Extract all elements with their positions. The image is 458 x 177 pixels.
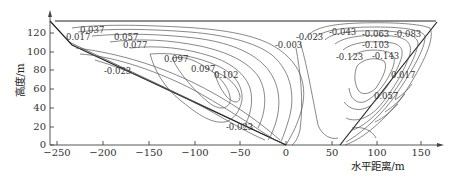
contour-label: 0.102 xyxy=(214,70,238,80)
contour-label: 0.097 xyxy=(191,64,215,74)
contour-label: -0.023 xyxy=(226,122,253,132)
contour-label: -0.143 xyxy=(372,51,399,61)
contour-label: 0.057 xyxy=(374,91,398,101)
x-axis-arrow-icon xyxy=(437,143,444,147)
x-tick-label: −50 xyxy=(229,147,250,158)
contour-label: -0.023 xyxy=(296,32,323,42)
x-tick-label: 0 xyxy=(283,147,289,158)
x-tick-label: −100 xyxy=(181,147,208,158)
x-axis: −250 −200 −150 −100 −50 0 50 100 150 水平距… xyxy=(43,141,444,172)
contour-label: 0.077 xyxy=(123,40,147,50)
y-tick-label: 120 xyxy=(27,27,46,38)
contour-label: -0.063 xyxy=(362,29,389,39)
y-tick-label: 80 xyxy=(33,64,46,75)
x-tick-label: 50 xyxy=(326,147,339,158)
y-axis-arrow-icon xyxy=(48,10,52,17)
y-axis-title: 高度/m xyxy=(14,63,26,97)
contour-label: 0.017 xyxy=(66,32,90,42)
x-tick-label: 100 xyxy=(367,147,386,158)
y-tick-label: 60 xyxy=(33,83,46,94)
contour-label: -0.123 xyxy=(336,52,363,62)
contour-label: -0.023 xyxy=(104,66,131,76)
contour-label: -0.083 xyxy=(394,29,421,39)
x-tick-label: −200 xyxy=(89,147,116,158)
x-tick-label: −250 xyxy=(43,147,70,158)
contour-label: 0.097 xyxy=(164,54,188,64)
y-axis: 0 20 40 60 80 100 120 高度/m xyxy=(14,10,54,150)
left-cell-contours xyxy=(72,25,304,145)
y-tick-label: 20 xyxy=(33,121,46,132)
x-axis-title: 水平距离/m xyxy=(351,160,405,172)
contour-label: -0.043 xyxy=(329,27,356,37)
x-tick-label: −150 xyxy=(135,147,162,158)
contour-label: -0.103 xyxy=(362,40,389,50)
y-tick-label: 100 xyxy=(27,46,46,57)
x-tick-label: 150 xyxy=(411,147,430,158)
contour-label: 0.017 xyxy=(391,70,415,80)
contour-chart: 0 20 40 60 80 100 120 高度/m −250 −200 −15… xyxy=(0,0,458,177)
y-tick-label: 40 xyxy=(33,102,46,113)
